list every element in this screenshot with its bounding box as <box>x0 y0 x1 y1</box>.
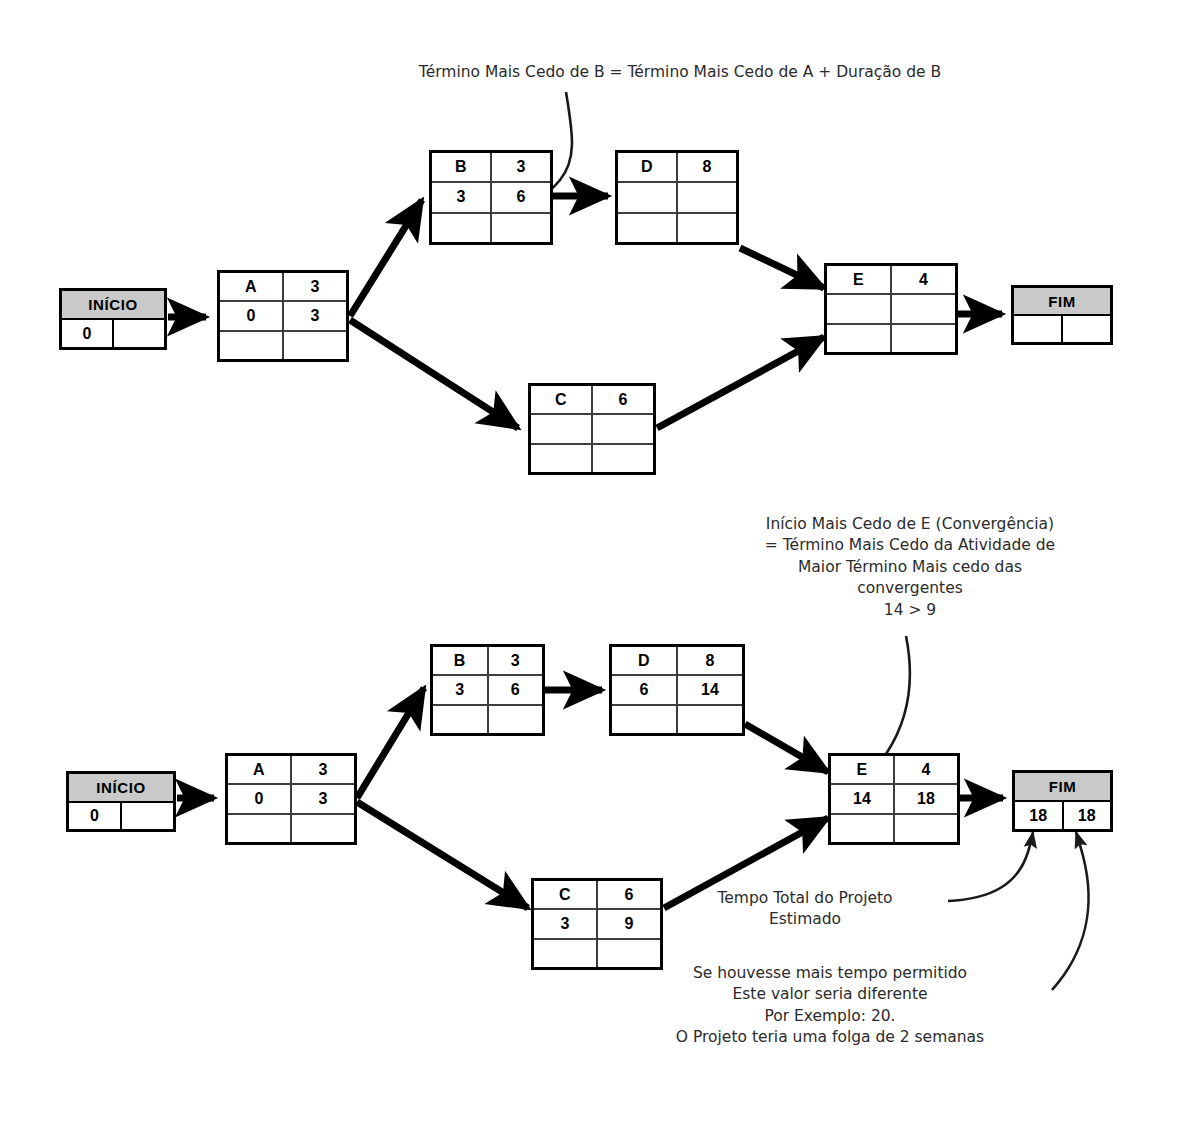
start-node-bottom-left-value: 0 <box>69 803 120 830</box>
node-c-bottom-late-start <box>534 940 596 967</box>
node-b-bottom-row-1: B 3 <box>433 647 542 674</box>
node-e-bottom[interactable]: E 4 14 18 <box>828 753 960 845</box>
node-e-bottom-row-3 <box>831 813 957 842</box>
node-c-bottom-row-2: 3 9 <box>534 908 660 937</box>
node-e-bottom-late-start <box>831 815 893 842</box>
node-a-bottom-row-1: A 3 <box>228 756 354 783</box>
edge-a-to-b-bottom <box>357 688 424 798</box>
node-c-top-early-start <box>531 415 591 442</box>
node-c-bottom-duration: 6 <box>596 881 660 908</box>
end-node-top-right-value <box>1061 316 1110 342</box>
start-node-top-right-value <box>112 320 164 347</box>
annotation-total-project-time: Tempo Total do Projeto Estimado <box>660 888 950 931</box>
node-d-top-late-start <box>618 214 676 242</box>
node-c-top-activity: C <box>531 386 591 413</box>
node-a-top-duration: 3 <box>282 273 346 300</box>
node-e-top-early-start <box>827 295 890 322</box>
node-e-top[interactable]: E 4 <box>824 263 958 355</box>
node-d-top[interactable]: D 8 <box>615 150 739 245</box>
node-d-bottom-row-1: D 8 <box>612 647 742 674</box>
edge-a-to-c-top <box>350 320 518 428</box>
node-a-top[interactable]: A 3 0 3 <box>217 270 349 362</box>
node-e-top-row-2 <box>827 293 955 322</box>
node-c-bottom[interactable]: C 6 3 9 <box>531 878 663 970</box>
node-e-bottom-row-2: 14 18 <box>831 783 957 812</box>
node-b-bottom[interactable]: B 3 3 6 <box>430 644 545 736</box>
node-e-bottom-activity: E <box>831 756 893 783</box>
node-c-top-row-3 <box>531 443 653 472</box>
edge-a-to-b-top <box>350 200 422 316</box>
node-b-bottom-late-start <box>433 706 487 733</box>
node-c-top-row-1: C 6 <box>531 386 653 413</box>
node-b-top-row-3 <box>432 212 550 242</box>
end-node-bottom-right-value: 18 <box>1062 802 1111 829</box>
node-d-bottom-late-finish <box>676 706 742 733</box>
node-d-bottom-activity: D <box>612 647 676 674</box>
start-node-top[interactable]: INÍCIO 0 <box>59 288 167 350</box>
node-a-bottom-early-finish: 3 <box>290 785 354 812</box>
node-a-top-early-finish: 3 <box>282 302 346 329</box>
end-node-top[interactable]: FIM <box>1011 285 1113 345</box>
edge-d-to-e-top <box>740 248 824 288</box>
start-node-bottom-values: 0 <box>69 803 173 830</box>
annotation-pointer-total-time <box>948 832 1033 901</box>
node-b-top-duration: 3 <box>490 153 550 181</box>
node-d-top-row-2 <box>618 181 736 211</box>
node-a-top-activity: A <box>220 273 282 300</box>
end-node-bottom[interactable]: FIM 18 18 <box>1012 770 1113 832</box>
node-b-top-late-start <box>432 214 490 242</box>
node-e-top-row-3 <box>827 323 955 352</box>
edge-c-to-e-top <box>657 337 824 428</box>
node-d-top-early-start <box>618 183 676 211</box>
node-b-bottom-duration: 3 <box>487 647 543 674</box>
end-node-top-label: FIM <box>1014 288 1110 316</box>
end-node-top-left-value <box>1014 316 1061 342</box>
node-e-bottom-duration: 4 <box>893 756 957 783</box>
node-c-bottom-early-start: 3 <box>534 910 596 937</box>
node-d-top-early-finish <box>676 183 736 211</box>
diagram-canvas: Término Mais Cedo de B = Término Mais Ce… <box>0 0 1183 1141</box>
node-a-top-late-start <box>220 332 282 359</box>
node-b-bottom-row-3 <box>433 704 542 733</box>
node-a-bottom-row-2: 0 3 <box>228 783 354 812</box>
node-c-top-early-finish <box>591 415 653 442</box>
node-b-bottom-activity: B <box>433 647 487 674</box>
node-d-top-duration: 8 <box>676 153 736 181</box>
node-d-bottom-row-2: 6 14 <box>612 674 742 703</box>
start-node-bottom[interactable]: INÍCIO 0 <box>66 771 176 832</box>
node-d-top-activity: D <box>618 153 676 181</box>
node-b-bottom-late-finish <box>487 706 543 733</box>
node-a-bottom-activity: A <box>228 756 290 783</box>
end-node-bottom-values: 18 18 <box>1015 802 1110 829</box>
node-d-bottom-early-start: 6 <box>612 676 676 703</box>
start-node-bottom-label: INÍCIO <box>69 774 173 803</box>
node-a-bottom[interactable]: A 3 0 3 <box>225 753 357 845</box>
node-c-top[interactable]: C 6 <box>528 383 656 475</box>
node-d-top-row-1: D 8 <box>618 153 736 181</box>
edge-d-to-e-bottom <box>745 724 828 772</box>
node-b-top[interactable]: B 3 3 6 <box>429 150 553 245</box>
edge-a-to-c-bottom <box>357 802 528 908</box>
node-b-top-early-finish: 6 <box>490 183 550 211</box>
node-d-bottom-late-start <box>612 706 676 733</box>
node-e-top-duration: 4 <box>890 266 955 293</box>
node-d-bottom[interactable]: D 8 6 14 <box>609 644 745 736</box>
node-e-bottom-late-finish <box>893 815 957 842</box>
node-b-top-early-start: 3 <box>432 183 490 211</box>
node-c-bottom-activity: C <box>534 881 596 908</box>
node-a-bottom-row-3 <box>228 813 354 842</box>
node-d-bottom-row-3 <box>612 704 742 733</box>
node-a-bottom-late-start <box>228 815 290 842</box>
node-c-top-row-2 <box>531 413 653 442</box>
start-node-top-values: 0 <box>62 320 164 347</box>
node-d-top-late-finish <box>676 214 736 242</box>
node-e-bottom-early-start: 14 <box>831 785 893 812</box>
node-c-top-late-start <box>531 445 591 472</box>
node-b-top-late-finish <box>490 214 550 242</box>
annotation-project-slack: Se houvesse mais tempo permitido Este va… <box>600 963 1060 1049</box>
node-e-top-late-start <box>827 325 890 352</box>
node-b-top-activity: B <box>432 153 490 181</box>
node-c-bottom-row-1: C 6 <box>534 881 660 908</box>
node-e-top-early-finish <box>890 295 955 322</box>
node-a-top-late-finish <box>282 332 346 359</box>
